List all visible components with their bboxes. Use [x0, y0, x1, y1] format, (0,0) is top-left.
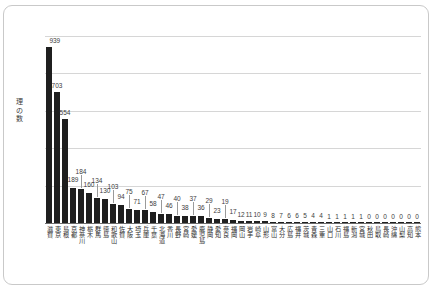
- x-axis-label: 和歌山: [110, 226, 117, 282]
- bar-value-label: 67: [141, 189, 148, 196]
- x-label-slot: 沖縄: [389, 226, 397, 282]
- bar-slot: 189: [69, 36, 77, 223]
- x-axis-label: 岩手: [246, 226, 253, 282]
- x-axis-label: 崎阜: [254, 226, 261, 282]
- bar-slot: 6: [293, 36, 301, 223]
- x-label-slot: 三重: [317, 226, 325, 282]
- x-label-slot: 和歌山: [109, 226, 117, 282]
- bar-value-label: 17: [229, 208, 236, 215]
- x-axis-label: 大阪: [126, 226, 133, 282]
- x-axis-label: 石川: [334, 226, 341, 282]
- x-axis-label: 山梨: [398, 226, 405, 282]
- bar-slot: 1: [357, 36, 365, 223]
- x-axis-label: 熊本: [414, 226, 421, 282]
- bar: [358, 222, 363, 223]
- bar-slot: 67: [141, 36, 149, 223]
- bar-value-label: 71: [133, 198, 140, 205]
- x-label-slot: 群馬: [93, 226, 101, 282]
- x-label-slot: 静岡: [205, 226, 213, 282]
- x-label-slot: 山形: [261, 226, 269, 282]
- x-axis-label: 青森: [310, 226, 317, 282]
- x-label-slot: 富山: [269, 226, 277, 282]
- x-axis-label: 山形: [262, 226, 269, 282]
- bar: [350, 222, 355, 223]
- x-label-slot: 広島: [285, 226, 293, 282]
- bar: [414, 222, 419, 223]
- x-label-slot: 青森: [309, 226, 317, 282]
- bar-slot: 103: [109, 36, 117, 223]
- bar-value-label: 0: [415, 213, 419, 220]
- bar-slot: 5: [301, 36, 309, 223]
- bar-slot: 1: [333, 36, 341, 223]
- bar-slot: 47: [157, 36, 165, 223]
- x-label-slot: 福井: [293, 226, 301, 282]
- x-axis-label: 栃木: [86, 226, 93, 282]
- bar: [182, 216, 187, 223]
- bar-slot: 29: [205, 36, 213, 223]
- bar: [102, 199, 107, 223]
- bar-value-label: 6: [287, 212, 291, 219]
- bar-value-label: 11: [246, 211, 253, 218]
- x-axis-label: 香川: [166, 226, 173, 282]
- x-label-slot: 東京: [53, 226, 61, 282]
- bar-value-label: 4: [311, 212, 315, 219]
- bar: [270, 222, 275, 223]
- x-label-slot: 奈良: [221, 226, 229, 282]
- x-axis-label: 島根: [62, 226, 69, 282]
- bar-slot: 134: [93, 36, 101, 223]
- bar-value-label: 40: [173, 195, 180, 202]
- bar: [86, 193, 91, 223]
- bar: [190, 216, 195, 223]
- plot-area: 02004006008001000 9397035541891841601341…: [45, 36, 421, 223]
- x-label-slot: 島根: [61, 226, 69, 282]
- x-axis-label: 茨城: [302, 226, 309, 282]
- x-label-slot: 埼玉: [133, 226, 141, 282]
- bar-slot: 4: [317, 36, 325, 223]
- bar-value-label: 58: [149, 200, 156, 207]
- bar-value-label: 4: [319, 212, 323, 219]
- bar: [222, 219, 227, 223]
- x-axis-label: 宮崎: [182, 226, 189, 282]
- bar: [318, 222, 323, 223]
- bar-value-label: 37: [189, 195, 196, 202]
- bar-slot: 184: [77, 36, 85, 223]
- bar: [246, 221, 251, 223]
- x-axis-label: 岡山: [238, 226, 245, 282]
- label-leader-line: [209, 204, 210, 217]
- bar-slot: 12: [237, 36, 245, 223]
- bar-slot: 1: [341, 36, 349, 223]
- bar-slot: 9: [261, 36, 269, 223]
- bar-slot: 71: [133, 36, 141, 223]
- x-axis-label: 広島: [286, 226, 293, 282]
- bar-value-label: 1: [335, 213, 339, 220]
- bar: [230, 220, 235, 223]
- x-axis-label: 福井: [294, 226, 301, 282]
- x-axis-label: 徳島: [102, 226, 109, 282]
- x-label-slot: 長崎: [381, 226, 389, 282]
- bar-slot: 36: [197, 36, 205, 223]
- x-label-slot: 岩手: [245, 226, 253, 282]
- bar-slot: 0: [397, 36, 405, 223]
- bar-slot: 0: [389, 36, 397, 223]
- bar: [366, 222, 371, 223]
- x-label-slot: 高知: [405, 226, 413, 282]
- chart-figure: 理の数 02004006008001000 939703554189184160…: [0, 0, 441, 292]
- x-label-slot: 大阪: [125, 226, 133, 282]
- x-axis-label: 大分: [278, 226, 285, 282]
- x-axis-label: 埼玉: [134, 226, 141, 282]
- x-label-slot: 長野: [173, 226, 181, 282]
- bar-value-label: 46: [165, 202, 172, 209]
- bar-slot: 939: [45, 36, 53, 223]
- bar-value-label: 38: [181, 204, 188, 211]
- bar: [158, 214, 163, 223]
- bar-slot: 19: [221, 36, 229, 223]
- bar-value-label: 0: [407, 213, 411, 220]
- bar-slot: 1: [325, 36, 333, 223]
- label-leader-line: [145, 196, 146, 209]
- x-axis-label: 東京: [54, 226, 61, 282]
- x-axis-label: 長野: [174, 226, 181, 282]
- bar-slot: 0: [405, 36, 413, 223]
- bar-slot: 10: [253, 36, 261, 223]
- x-label-slot: 滋賀: [45, 226, 53, 282]
- x-label-slot: 京都: [69, 226, 77, 282]
